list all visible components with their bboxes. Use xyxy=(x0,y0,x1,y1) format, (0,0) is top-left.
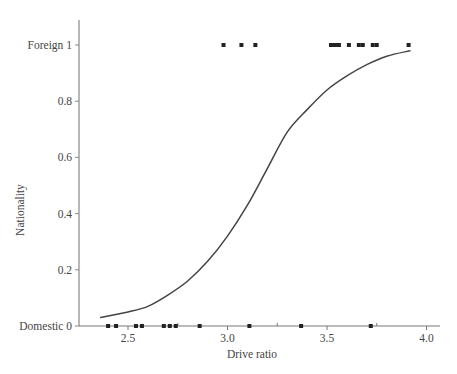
data-point xyxy=(239,43,243,47)
data-point xyxy=(357,43,361,47)
data-point xyxy=(222,43,226,47)
data-point xyxy=(114,324,118,328)
y-axis-title: Nationality xyxy=(14,184,27,236)
logistic-chart: Domestic 00.20.40.60.8Foreign 12.53.03.5… xyxy=(0,0,457,374)
x-tick-label: 3.5 xyxy=(320,332,335,344)
data-point xyxy=(168,324,172,328)
axes: Domestic 00.20.40.60.8Foreign 12.53.03.5… xyxy=(19,20,440,344)
data-point xyxy=(140,324,144,328)
data-point xyxy=(329,43,333,47)
x-tick-label: 2.5 xyxy=(121,332,136,344)
data-point xyxy=(299,324,303,328)
y-tick-label: 0.6 xyxy=(58,151,73,163)
data-point xyxy=(134,324,138,328)
data-point xyxy=(106,324,110,328)
logistic-curve xyxy=(100,51,410,318)
x-axis-title: Drive ratio xyxy=(227,348,277,360)
y-tick-label: 0.2 xyxy=(58,264,73,276)
data-point xyxy=(369,324,373,328)
data-point xyxy=(407,43,411,47)
y-tick-label: Foreign 1 xyxy=(28,39,73,52)
data-point xyxy=(347,43,351,47)
y-tick-label: 0.8 xyxy=(58,95,73,107)
data-point xyxy=(247,324,251,328)
data-point xyxy=(174,324,178,328)
data-point xyxy=(198,324,202,328)
data-point xyxy=(337,43,341,47)
x-tick-label: 4.0 xyxy=(419,332,434,344)
fitted-curve xyxy=(100,51,410,318)
data-point xyxy=(162,324,166,328)
data-point xyxy=(371,43,375,47)
y-tick-label: 0.4 xyxy=(58,208,73,220)
data-point xyxy=(375,43,379,47)
data-point xyxy=(333,43,337,47)
y-tick-label: Domestic 0 xyxy=(19,320,72,332)
data-point xyxy=(361,43,365,47)
data-point xyxy=(253,43,257,47)
x-tick-label: 3.0 xyxy=(220,332,235,344)
